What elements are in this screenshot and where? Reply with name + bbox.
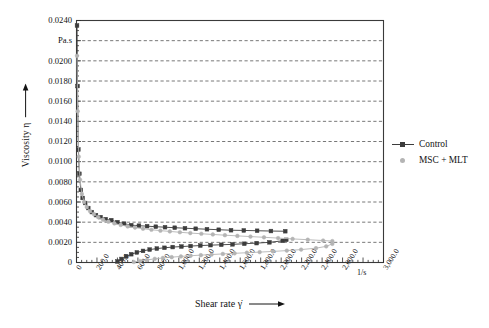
data-point [189,254,193,258]
data-point [132,260,136,264]
data-point [141,227,145,231]
data-point [154,225,158,229]
data-point [163,225,167,229]
data-point [268,240,272,244]
data-point [324,245,328,249]
legend-label: Control [418,139,448,149]
data-point [205,227,209,231]
data-point [255,241,259,245]
data-point [233,251,237,255]
data-point [75,24,79,28]
data-point [133,226,137,230]
data-point [170,255,174,259]
data-point [153,257,157,261]
data-point [107,220,111,224]
data-point [85,205,89,209]
data-point [242,229,246,233]
chart-legend: ControlMSC + MLT [392,136,468,168]
legend-label: MSC + MLT [418,155,468,165]
data-point [217,228,221,232]
data-point [236,234,240,238]
data-point [199,232,203,236]
data-point [219,243,223,247]
data-point [299,248,303,252]
data-point [211,233,215,237]
data-point [221,252,225,256]
data-point [145,258,149,262]
data-point [80,192,84,196]
data-point [188,231,192,235]
data-point [148,248,152,252]
data-point [283,229,287,233]
data-point [285,249,289,253]
legend-item: MSC + MLT [392,152,468,168]
data-point [291,237,295,241]
data-point [245,251,249,255]
series-line [77,56,332,241]
data-point [258,250,262,254]
data-point [276,236,280,240]
data-point [116,260,120,264]
legend-marker-icon [400,142,405,147]
data-point [210,253,214,257]
data-point [242,242,246,246]
data-point [255,229,259,233]
data-point [330,242,334,246]
data-point [120,257,124,261]
data-point [183,226,187,230]
data-point [82,200,86,204]
data-point [77,155,81,159]
chart-figure: Viscosity η Shear rate γ̇ 0.0240Pa.s0.02… [0,0,489,328]
data-point [141,249,145,253]
data-point [168,230,172,234]
data-point [262,235,266,239]
data-point [88,209,92,213]
data-point [78,178,82,182]
data-point [171,245,175,249]
data-point [209,243,213,247]
data-point [306,238,310,242]
data-point [321,239,325,243]
data-point [249,235,253,239]
data-point [138,259,142,263]
data-point [223,233,227,237]
data-point [173,226,177,230]
data-point [281,239,285,243]
legend-item: Control [392,136,468,152]
data-point [231,243,235,247]
data-point [137,224,141,228]
data-point [189,244,193,248]
data-point [271,250,275,254]
data-point [161,256,165,260]
data-point [129,252,133,256]
data-point [145,224,149,228]
data-point [135,251,139,255]
data-point [75,54,79,58]
data-point [76,109,80,113]
data-point [194,227,198,231]
data-point [126,225,130,229]
legend-marker-icon [400,158,405,163]
data-point [96,215,100,219]
data-point [198,244,202,248]
legend-square-marker-icon [392,139,414,149]
data-point [179,255,183,259]
data-point [163,246,167,250]
data-point [314,246,318,250]
data-point [159,229,163,233]
data-point [178,230,182,234]
data-point [113,222,117,226]
data-point [124,255,128,259]
data-point [101,218,105,222]
data-point [269,229,273,233]
data-point [199,253,203,257]
series-line [77,26,285,232]
data-point [229,228,233,232]
data-point [180,245,184,249]
data-point [150,228,154,232]
legend-circle-marker-icon [392,155,414,165]
data-point [92,212,96,216]
data-point [119,223,123,227]
data-point [155,247,159,251]
